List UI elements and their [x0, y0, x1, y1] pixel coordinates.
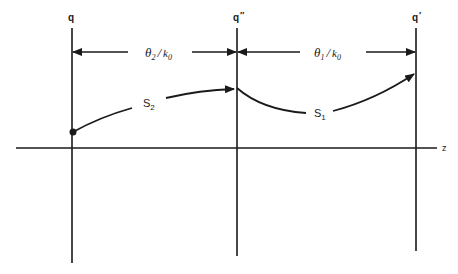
diagram-canvas: q q″ q′ θ2/k0 θ1/k0 S2 S1 z [0, 0, 458, 274]
label-q-double-prime: q″ [233, 10, 245, 23]
path-s2-upper [166, 89, 234, 98]
path-label-s1: S1 [314, 107, 326, 122]
label-q: q [68, 12, 74, 23]
interval-label-theta2-k0: θ2/k0 [145, 45, 172, 62]
path-s1-right [333, 74, 414, 111]
path-s2-lower [73, 108, 132, 132]
path-label-s2: S2 [143, 97, 155, 112]
path-s1-left [237, 88, 306, 113]
label-q-prime: q′ [412, 10, 421, 23]
axis-label-z: z [442, 143, 447, 153]
interval-label-theta1-k0: θ1/k0 [314, 45, 341, 62]
